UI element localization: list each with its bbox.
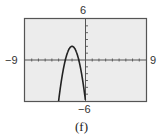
graph-plot (0, 0, 164, 139)
